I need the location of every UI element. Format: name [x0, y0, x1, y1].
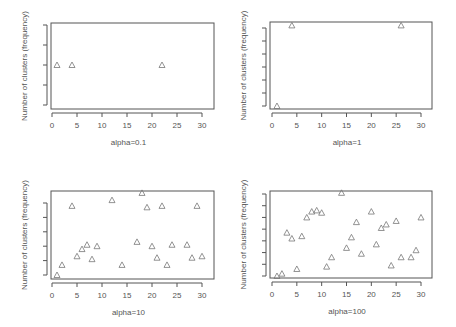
y-axis-label: Number of clusters (frequency) [239, 179, 248, 289]
triangle-marker-icon [358, 251, 364, 257]
x-tick-label: 30 [417, 121, 426, 130]
scatter-plot: 051015202530alpha=10Number of clusters (… [0, 163, 228, 327]
y-axis-label: Number of clusters (frequency) [20, 11, 29, 121]
triangle-marker-icon [149, 243, 155, 249]
triangle-marker-icon [144, 204, 150, 210]
x-axis-label: alpha=0.1 [111, 138, 147, 147]
plot-frame [51, 191, 214, 279]
triangle-marker-icon [388, 262, 394, 268]
triangle-marker-icon [279, 271, 285, 277]
triangle-marker-icon [94, 243, 100, 249]
panel-alpha-0-1: 051015202530alpha=0.1Number of clusters … [0, 0, 228, 163]
x-tick-label: 0 [50, 291, 55, 300]
triangle-marker-icon [184, 242, 190, 248]
triangle-marker-icon [329, 254, 335, 260]
triangle-marker-icon [314, 207, 320, 213]
x-tick-label: 5 [295, 290, 300, 299]
triangle-marker-icon [284, 230, 290, 236]
y-axis-label: Number of clusters (frequency) [239, 10, 248, 120]
x-tick-label: 0 [270, 121, 275, 130]
x-tick-label: 10 [317, 290, 326, 299]
x-tick-label: 30 [417, 290, 426, 299]
panel-alpha-100: 051015202530alpha=100Number of clusters … [228, 163, 456, 327]
triangle-marker-icon [194, 203, 200, 209]
panel-alpha-1: 051015202530alpha=1Number of clusters (f… [228, 0, 456, 163]
triangle-marker-icon [393, 218, 399, 224]
scatter-plot: 051015202530alpha=100Number of clusters … [228, 163, 456, 327]
x-tick-label: 20 [367, 121, 376, 130]
x-tick-label: 25 [392, 290, 401, 299]
triangle-marker-icon [289, 22, 295, 28]
triangle-marker-icon [408, 254, 414, 260]
triangle-marker-icon [109, 197, 115, 203]
triangle-marker-icon [69, 62, 75, 68]
triangle-marker-icon [353, 219, 359, 225]
triangle-marker-icon [54, 272, 60, 278]
triangle-marker-icon [89, 256, 95, 262]
x-axis-label: alpha=100 [328, 307, 366, 316]
x-tick-label: 25 [173, 121, 182, 130]
scatter-plot: 051015202530alpha=0.1Number of clusters … [0, 0, 228, 163]
x-tick-label: 20 [148, 121, 157, 130]
triangle-marker-icon [59, 262, 65, 268]
triangle-marker-icon [159, 203, 165, 209]
triangle-marker-icon [348, 234, 354, 240]
plot-frame [51, 23, 214, 109]
x-tick-label: 15 [342, 290, 351, 299]
triangle-marker-icon [294, 266, 300, 272]
x-tick-label: 15 [123, 121, 132, 130]
triangle-marker-icon [383, 221, 389, 227]
triangle-marker-icon [299, 233, 305, 239]
plot-frame [270, 22, 432, 109]
triangle-marker-icon [169, 242, 175, 248]
triangle-marker-icon [164, 262, 170, 268]
triangle-marker-icon [74, 253, 80, 259]
x-tick-label: 5 [295, 121, 300, 130]
triangle-marker-icon [84, 242, 90, 248]
x-tick-label: 5 [75, 121, 80, 130]
x-tick-label: 10 [98, 121, 107, 130]
x-tick-label: 0 [270, 290, 275, 299]
triangle-marker-icon [344, 245, 350, 251]
x-tick-label: 20 [367, 290, 376, 299]
x-tick-label: 0 [50, 121, 55, 130]
triangle-marker-icon [324, 264, 330, 270]
triangle-marker-icon [199, 253, 205, 259]
triangle-marker-icon [398, 22, 404, 28]
triangle-marker-icon [304, 214, 310, 220]
x-tick-label: 10 [98, 291, 107, 300]
x-tick-label: 30 [198, 291, 207, 300]
scatter-plot: 051015202530alpha=1Number of clusters (f… [228, 0, 456, 163]
y-axis-label: Number of clusters (frequency) [20, 180, 29, 290]
x-tick-label: 25 [173, 291, 182, 300]
triangle-marker-icon [378, 225, 384, 231]
triangle-marker-icon [274, 103, 280, 109]
triangle-marker-icon [373, 241, 379, 247]
panel-alpha-10: 051015202530alpha=10Number of clusters (… [0, 163, 228, 327]
x-tick-label: 5 [75, 291, 80, 300]
triangle-marker-icon [54, 62, 60, 68]
triangle-marker-icon [134, 239, 140, 245]
triangle-marker-icon [398, 254, 404, 260]
triangle-marker-icon [418, 214, 424, 220]
triangle-marker-icon [119, 262, 125, 268]
triangle-marker-icon [189, 255, 195, 261]
x-tick-label: 15 [342, 121, 351, 130]
x-tick-label: 30 [198, 121, 207, 130]
triangle-marker-icon [154, 255, 160, 261]
x-axis-label: alpha=10 [112, 308, 146, 317]
x-tick-label: 25 [392, 121, 401, 130]
x-tick-label: 20 [148, 291, 157, 300]
triangle-marker-icon [69, 203, 75, 209]
triangle-marker-icon [289, 236, 295, 242]
x-tick-label: 10 [317, 121, 326, 130]
triangle-marker-icon [159, 62, 165, 68]
triangle-marker-icon [413, 247, 419, 253]
triangle-marker-icon [368, 209, 374, 215]
x-tick-label: 15 [123, 291, 132, 300]
x-axis-label: alpha=1 [333, 138, 362, 147]
